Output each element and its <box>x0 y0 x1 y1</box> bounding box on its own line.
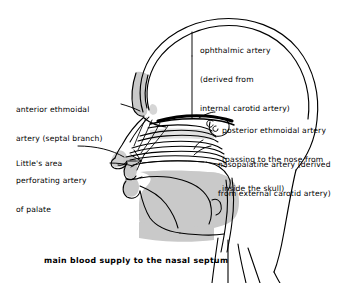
nasopalatine-vessel <box>142 161 204 163</box>
label-ophthalmic-line2: (derived from <box>200 75 290 85</box>
label-ophthalmic-line1: ophthalmic artery <box>200 46 290 56</box>
label-nasopalatine-artery: nasopalatine artery (derived from extern… <box>218 141 331 218</box>
label-posterior-ethmoidal-line1: posterior ethmoidal artery <box>222 126 326 136</box>
anatomy-figure: ophthalmic artery (derived from internal… <box>0 0 355 283</box>
neck-contour-back <box>274 272 280 283</box>
label-anterior-ethmoidal-line1: anterior ethmoidal <box>16 105 103 115</box>
septal-branch-2 <box>138 120 152 150</box>
neck-line-4 <box>248 248 260 283</box>
hard-palate-upper <box>130 156 226 163</box>
orbit-shade <box>149 104 157 115</box>
figure-caption: main blood supply to the nasal septum <box>44 256 228 265</box>
neck-line-3 <box>238 244 246 283</box>
label-nasopalatine-line2: from external carotid artery) <box>218 189 331 199</box>
label-nasopalatine-line1: nasopalatine artery (derived <box>218 160 331 170</box>
label-perforating-palate-line2: of palate <box>16 205 87 215</box>
label-perforating-palate-line1: perforating artery <box>16 176 87 186</box>
label-perforating-artery-of-palate: perforating artery of palate <box>16 157 87 234</box>
